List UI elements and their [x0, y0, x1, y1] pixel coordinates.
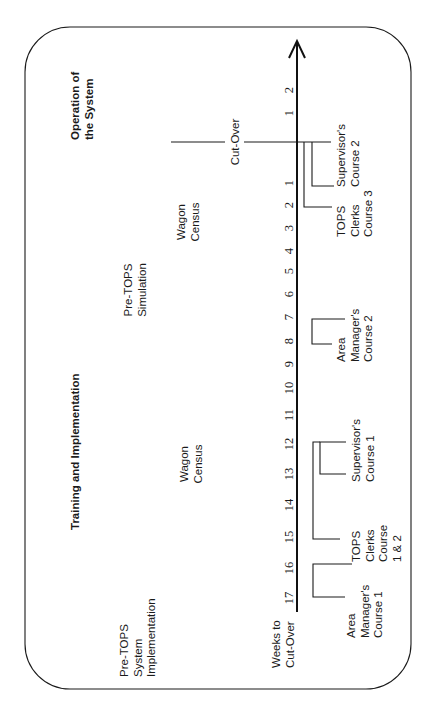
svg-text:Course 1: Course 1 — [364, 435, 376, 482]
svg-text:TOPS: TOPS — [335, 206, 347, 237]
svg-text:Operation of: Operation of — [69, 71, 81, 140]
pre-tops-simulation-line2: Simulation — [136, 263, 148, 317]
cut-over-label: Cut-Over — [229, 119, 241, 166]
svg-text:Supervisor's: Supervisor's — [335, 124, 347, 187]
course-area-managers-1-label: Area Manager's Course 1 — [345, 584, 384, 638]
phase-pre-tops-label: Pre-TOPS System Implementation — [118, 598, 157, 677]
svg-text:TOPS: TOPS — [350, 531, 362, 562]
tc3-line2: Clerks — [349, 204, 361, 237]
tc12-line2: Clerks — [364, 529, 376, 562]
svg-text:Cut-Over: Cut-Over — [284, 621, 296, 668]
course-area-managers-2-label: Area Manager's Course 2 — [335, 308, 374, 362]
course-supervisors-1-label: Supervisor's Course 1 — [350, 419, 376, 482]
axis-title: Weeks to Cut-Over — [270, 620, 296, 668]
svg-text:Course 3: Course 3 — [362, 190, 374, 237]
wagon-census-2-line2: Census — [192, 444, 204, 483]
bracket-tops-clerks-course-1-2 — [313, 442, 340, 539]
tick-before-8: 8 — [282, 338, 296, 344]
svg-text:Course 2: Course 2 — [362, 315, 374, 362]
svg-text:Course: Course — [377, 525, 389, 562]
svg-text:Pre-TOPS: Pre-TOPS — [122, 263, 134, 316]
phase-operation-line2: the System — [83, 79, 95, 140]
tc3-line3: Course 3 — [362, 190, 374, 237]
course-supervisors-2-label: Supervisor's Course 2 — [335, 124, 361, 187]
tick-before-16: 16 — [282, 562, 296, 575]
am1-line3: Course 1 — [372, 591, 384, 638]
svg-text:Wagon: Wagon — [178, 446, 190, 482]
am2-line3: Course 2 — [362, 315, 374, 362]
svg-text:Clerks: Clerks — [364, 529, 376, 562]
sup2-line2: Course 2 — [349, 140, 361, 187]
tick-before-13: 13 — [282, 468, 296, 481]
wagon-census-1-line2: Census — [189, 202, 201, 241]
tc12-line1: TOPS — [350, 531, 362, 562]
tick-before-5: 5 — [282, 268, 296, 274]
svg-text:System: System — [132, 639, 144, 677]
svg-text:Training and Implementation: Training and Implementation — [69, 373, 81, 530]
am2-line1: Area — [335, 337, 347, 362]
tick-before-1: 1 — [282, 180, 296, 186]
phase-operation-line1: Operation of — [69, 71, 81, 140]
tick-before-4: 4 — [282, 247, 296, 254]
course-tops-clerks-1-2-label: TOPS Clerks Course 1 & 2 — [350, 525, 403, 562]
tick-after-2: 2 — [282, 87, 296, 93]
phase-training-text: Training and Implementation — [69, 373, 81, 530]
svg-text:Course 2: Course 2 — [349, 140, 361, 187]
activity-pre-tops-simulation: Pre-TOPS Simulation — [122, 263, 148, 317]
phase-operation-label: Operation of the System — [69, 71, 95, 140]
svg-text:Course 1: Course 1 — [372, 591, 384, 638]
tick-before-10: 10 — [282, 382, 296, 395]
tc12-line3: Course — [377, 525, 389, 562]
activity-wagon-census-2: Wagon Census — [178, 444, 204, 483]
bracket-tops-clerks-course-3 — [304, 142, 332, 207]
am1-line1: Area — [345, 613, 357, 638]
svg-text:Cut-Over: Cut-Over — [229, 119, 241, 166]
course-tops-clerks-3-label: TOPS Clerks Course 3 — [335, 190, 374, 237]
svg-text:Manager's: Manager's — [349, 308, 361, 362]
phase-pre-tops-line2: System — [132, 639, 144, 677]
sup1-line2: Course 1 — [364, 435, 376, 482]
svg-text:Manager's: Manager's — [359, 584, 371, 638]
svg-text:Area: Area — [335, 337, 347, 362]
axis-title-line2: Cut-Over — [284, 621, 296, 668]
tick-before-2: 2 — [282, 202, 296, 208]
svg-text:the System: the System — [83, 79, 95, 140]
svg-text:Pre-TOPS: Pre-TOPS — [118, 624, 130, 677]
svg-text:Supervisor's: Supervisor's — [350, 419, 362, 482]
tick-before-7: 7 — [282, 314, 296, 320]
svg-text:Wagon: Wagon — [175, 204, 187, 240]
tick-before-12: 12 — [282, 438, 296, 451]
svg-text:Simulation: Simulation — [136, 263, 148, 317]
sup1-line1: Supervisor's — [350, 419, 362, 482]
svg-text:Weeks to: Weeks to — [270, 620, 282, 668]
phase-pre-tops-line1: Pre-TOPS — [118, 624, 130, 677]
svg-text:Census: Census — [189, 202, 201, 241]
svg-text:Area: Area — [345, 613, 357, 638]
cut-over-text: Cut-Over — [229, 119, 241, 166]
tick-before-14: 14 — [282, 498, 296, 511]
timeline-diagram: Operation of the System Training and Imp… — [0, 0, 429, 708]
axis-title-line1: Weeks to — [270, 620, 282, 668]
tc3-line1: TOPS — [335, 206, 347, 237]
pre-tops-simulation-line1: Pre-TOPS — [122, 263, 134, 316]
ticks-after: 1 2 — [282, 87, 296, 116]
sup2-line1: Supervisor's — [335, 124, 347, 187]
bracket-supervisors-course-2 — [312, 142, 334, 186]
wagon-census-1-line1: Wagon — [175, 204, 187, 240]
tick-after-1: 1 — [282, 110, 296, 116]
tick-before-9: 9 — [282, 361, 296, 367]
tick-before-15: 15 — [282, 531, 296, 544]
bracket-supervisors-course-1 — [320, 442, 346, 474]
tick-before-3: 3 — [282, 225, 296, 231]
svg-text:Clerks: Clerks — [349, 204, 361, 237]
tc12-line4: 1 & 2 — [391, 535, 403, 562]
am2-line2: Manager's — [349, 308, 361, 362]
wagon-census-2-line1: Wagon — [178, 446, 190, 482]
svg-text:Census: Census — [192, 444, 204, 483]
tick-before-17: 17 — [282, 592, 296, 605]
phase-pre-tops-line3: Implementation — [145, 598, 157, 677]
am1-line2: Manager's — [359, 584, 371, 638]
svg-text:Implementation: Implementation — [145, 598, 157, 677]
bracket-area-managers-course-1 — [313, 564, 352, 597]
phase-training-label: Training and Implementation — [69, 373, 81, 530]
